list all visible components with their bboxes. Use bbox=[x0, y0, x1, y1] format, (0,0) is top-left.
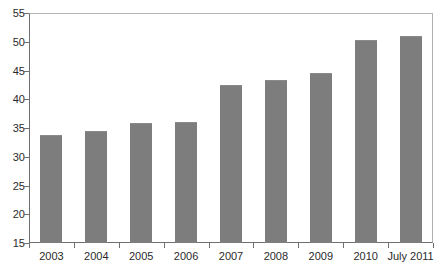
bar-slot bbox=[388, 14, 433, 243]
clipped-header-text bbox=[0, 0, 440, 7]
bar bbox=[40, 135, 62, 243]
bar bbox=[130, 123, 152, 243]
bars-layer bbox=[30, 14, 432, 243]
x-tick-mark bbox=[298, 243, 299, 248]
bar-chart-figure: 152025303540455055 200320042005200620072… bbox=[0, 0, 440, 268]
bar-slot bbox=[119, 14, 164, 243]
x-tick-label: July 2011 bbox=[387, 250, 433, 262]
x-tick-mark bbox=[119, 243, 120, 248]
x-axis: 20032004200520062007200820092010July 201… bbox=[0, 250, 440, 266]
bar-slot bbox=[343, 14, 388, 243]
x-tick-mark bbox=[433, 243, 434, 248]
y-tick-label: 45 bbox=[0, 65, 25, 76]
x-tick-label: 2007 bbox=[219, 250, 243, 262]
x-tick-mark bbox=[29, 243, 30, 248]
x-tick-mark bbox=[253, 243, 254, 248]
x-tick-mark bbox=[209, 243, 210, 248]
y-tick-label: 15 bbox=[0, 238, 25, 249]
bar bbox=[355, 40, 377, 243]
y-tick-label: 35 bbox=[0, 123, 25, 134]
x-tick-label: 2009 bbox=[309, 250, 333, 262]
bar bbox=[400, 36, 422, 243]
x-tick-mark bbox=[74, 243, 75, 248]
bar-slot bbox=[209, 14, 254, 243]
bar-slot bbox=[74, 14, 119, 243]
y-tick-label: 40 bbox=[0, 94, 25, 105]
x-tick-label: 2004 bbox=[84, 250, 108, 262]
x-tick-label: 2003 bbox=[39, 250, 63, 262]
x-tick-mark bbox=[388, 243, 389, 248]
y-tick-label: 20 bbox=[0, 209, 25, 220]
bar-slot bbox=[164, 14, 209, 243]
x-tick-label: 2005 bbox=[129, 250, 153, 262]
x-tick-mark bbox=[164, 243, 165, 248]
bar-slot bbox=[253, 14, 298, 243]
y-tick-label: 25 bbox=[0, 180, 25, 191]
y-axis: 152025303540455055 bbox=[0, 0, 25, 268]
bar-slot bbox=[298, 14, 343, 243]
x-tick-label: 2008 bbox=[264, 250, 288, 262]
bar bbox=[265, 80, 287, 243]
bar bbox=[175, 122, 197, 243]
bar-slot bbox=[29, 14, 74, 243]
y-tick-label: 50 bbox=[0, 36, 25, 47]
x-tick-label: 2010 bbox=[353, 250, 377, 262]
x-tick-mark bbox=[343, 243, 344, 248]
bar bbox=[85, 131, 107, 243]
x-tick-label: 2006 bbox=[174, 250, 198, 262]
y-tick-label: 30 bbox=[0, 151, 25, 162]
bar bbox=[220, 85, 242, 243]
bar bbox=[310, 73, 332, 243]
y-tick-label: 55 bbox=[0, 8, 25, 19]
